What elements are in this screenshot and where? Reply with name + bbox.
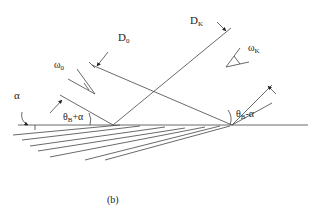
- diffracted-beam-DK: [113, 28, 231, 125]
- omegaK-angle: [226, 48, 249, 67]
- diffracted-beam-lower: [232, 85, 272, 125]
- crystal-planes: [13, 125, 230, 160]
- figure-caption: (b): [107, 194, 119, 206]
- theta-minus-arc: [228, 110, 231, 125]
- D0-arrow: [97, 52, 108, 66]
- theta-plus-alpha-label: θB+α: [63, 111, 84, 124]
- theta-plus-arc: [89, 113, 91, 125]
- theta-minus-alpha-label: θB-α: [236, 108, 255, 121]
- D0-label: D0: [118, 31, 130, 45]
- omegaK-label: ωK: [248, 42, 260, 55]
- DK-label: DK: [190, 14, 203, 28]
- omega0-angle: [68, 69, 95, 94]
- alpha-label: α: [14, 89, 20, 101]
- incident-beam-D0: [92, 65, 232, 125]
- exit-arrow: [268, 86, 276, 94]
- diffraction-diagram: α D0 DK ω0 ωK θB+α θB-α (b): [0, 0, 319, 215]
- incident-lower-arrow: [50, 100, 62, 113]
- omega0-label: ω0: [54, 59, 65, 72]
- DK-arrow: [217, 22, 226, 31]
